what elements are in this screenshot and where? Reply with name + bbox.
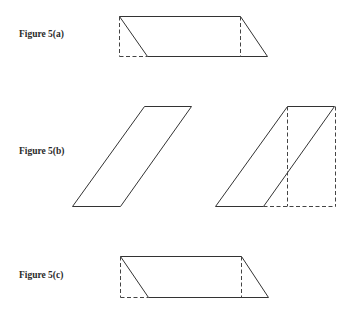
figure-5a-parallelogram [120, 17, 268, 57]
figure-5b-parallelogram-right [216, 107, 335, 207]
figure-5c-parallelogram [121, 257, 269, 298]
figure-5b-parallelogram-left [73, 107, 192, 207]
figure-5a-dashed-construction [120, 17, 241, 57]
diagram-svg [0, 0, 353, 321]
figure-5c-dashed-construction [121, 257, 242, 298]
diagram-canvas: Figure 5(a) Figure 5(b) Figure 5(c) [0, 0, 353, 321]
